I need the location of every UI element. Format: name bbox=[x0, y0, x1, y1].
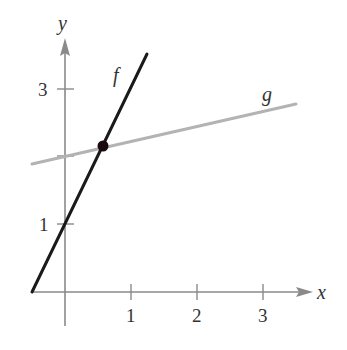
x-axis: x bbox=[32, 281, 326, 303]
series-g-label: g bbox=[262, 83, 272, 106]
intersection-point bbox=[98, 141, 109, 152]
series-f-line bbox=[32, 54, 147, 292]
line-chart: x y 1 2 3 1 3 g f bbox=[0, 0, 347, 350]
x-ticks: 1 2 3 bbox=[126, 284, 268, 326]
series-f-label: f bbox=[113, 64, 121, 87]
series-g-line bbox=[32, 104, 296, 164]
x-axis-label: x bbox=[316, 281, 326, 303]
y-tick-label-3: 3 bbox=[38, 79, 48, 100]
x-tick-label-2: 2 bbox=[192, 305, 202, 326]
x-tick-label-3: 3 bbox=[258, 305, 268, 326]
y-axis-label: y bbox=[56, 12, 67, 35]
y-axis: y bbox=[56, 12, 70, 326]
x-tick-label-1: 1 bbox=[126, 305, 136, 326]
y-tick-label-1: 1 bbox=[39, 214, 49, 235]
